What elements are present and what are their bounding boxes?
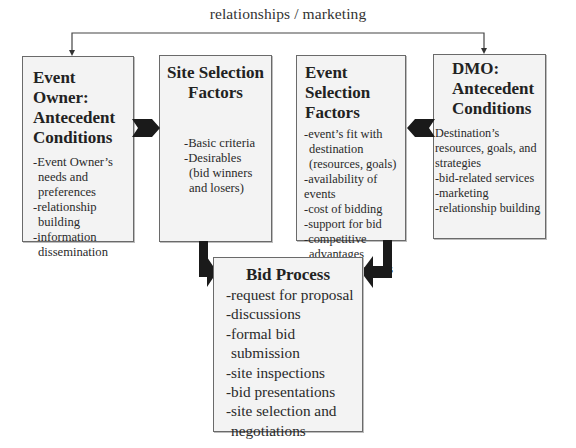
relationships-connector-line [0, 0, 576, 60]
title-line: Site Selection [160, 63, 271, 83]
list-item: -site selection and negotiations [226, 401, 362, 440]
item-text: -event’s fit with [304, 127, 382, 141]
item-text: (bid winners [184, 166, 271, 181]
item-text: and losers) [184, 181, 271, 196]
chevron-right-arrow-icon [132, 119, 162, 137]
list-item: resources, goals, and [435, 141, 545, 156]
item-text: -marketing [435, 186, 488, 200]
item-text: dissemination [33, 245, 133, 260]
title-line: Conditions [452, 99, 545, 119]
list-item: -bid presentations [226, 382, 362, 401]
title-line: Event Selection [305, 63, 405, 103]
item-text: negotiations [226, 421, 362, 440]
list-item: -event’s fit with destination (resources… [304, 127, 405, 172]
bid-process-box: Bid Process -request for proposal -discu… [213, 257, 363, 432]
item-text: submission [226, 343, 362, 362]
event-owner-title: Event Owner: Antecedent Conditions [23, 57, 133, 148]
item-text: -bid presentations [226, 383, 335, 400]
item-text: -information [33, 230, 97, 244]
item-text: -availability of events [304, 172, 377, 201]
list-item: -site inspections [226, 363, 362, 382]
dmo-items: Destination’s resources, goals, and stra… [434, 119, 545, 216]
item-text: strategies [435, 156, 481, 170]
title-line: Factors [160, 83, 271, 103]
site-selection-factors-box: Site Selection Factors -Basic criteria -… [159, 55, 272, 242]
item-text: -bid-related services [435, 171, 534, 185]
item-text: building [33, 215, 133, 230]
list-item: Destination’s [435, 126, 545, 141]
item-text: -Event Owner’s [33, 155, 113, 169]
list-item: -discussions [226, 304, 362, 323]
item-text: -request for proposal [226, 286, 353, 303]
item-text: -discussions [226, 305, 301, 322]
title-line: Factors [305, 103, 405, 123]
item-text: -formal bid [226, 325, 295, 342]
event-owner-antecedent-box: Event Owner: Antecedent Conditions -Even… [22, 56, 134, 242]
title-line: Event Owner: [33, 68, 133, 108]
item-text: -site inspections [226, 364, 325, 381]
bid-process-title: Bid Process [214, 258, 362, 285]
event-selection-factors-box: Event Selection Factors -event’s fit wit… [296, 55, 406, 241]
item-text: -Desirables [184, 151, 241, 165]
title-line: Antecedent [452, 79, 545, 99]
item-text: -competitive [304, 232, 367, 246]
item-text: needs and [33, 170, 133, 185]
item-text: preferences [33, 185, 133, 200]
item-text: -relationship [33, 200, 97, 214]
event-selection-title: Event Selection Factors [297, 56, 405, 123]
list-item: -support for bid [304, 217, 405, 232]
dmo-title: DMO: Antecedent Conditions [434, 55, 545, 119]
chevron-left-arrow-icon [405, 119, 435, 137]
title-line: Bid Process [214, 265, 362, 285]
site-selection-title: Site Selection Factors [160, 56, 271, 103]
list-item: -bid-related services [435, 171, 545, 186]
item-text: -site selection and [226, 402, 336, 419]
item-text: resources, goals, and [435, 141, 537, 155]
list-item: -Basic criteria [184, 136, 271, 151]
list-item: -cost of bidding [304, 202, 405, 217]
list-item: -marketing [435, 186, 545, 201]
item-text: Destination’s [435, 126, 499, 140]
item-text: -support for bid [304, 217, 382, 231]
event-owner-items: -Event Owner’s needs and preferences -re… [23, 148, 133, 260]
bid-process-items: -request for proposal -discussions -form… [214, 285, 362, 440]
bent-arrow-down-left-icon [361, 240, 393, 294]
item-text: destination [304, 142, 405, 157]
site-selection-items: -Basic criteria -Desirables (bid winners… [160, 103, 271, 196]
item-text: -cost of bidding [304, 202, 382, 216]
item-text: (resources, goals) [304, 157, 405, 172]
list-item: -Desirables (bid winners and losers) [184, 151, 271, 196]
title-line: Conditions [33, 128, 133, 148]
list-item: -relationship building [33, 200, 133, 230]
title-line: Antecedent [33, 108, 133, 128]
item-text: -Basic criteria [184, 136, 255, 150]
list-item: -information dissemination [33, 230, 133, 260]
list-item: -relationship building [435, 201, 545, 216]
list-item: -formal bid submission [226, 324, 362, 363]
list-item: -request for proposal [226, 285, 362, 304]
dmo-antecedent-box: DMO: Antecedent Conditions Destination’s… [433, 54, 546, 239]
list-item: -Event Owner’s needs and preferences [33, 155, 133, 200]
title-line: DMO: [452, 59, 545, 79]
list-item: strategies [435, 156, 545, 171]
list-item: -availability of events [304, 172, 405, 202]
item-text: -relationship building [435, 201, 540, 215]
